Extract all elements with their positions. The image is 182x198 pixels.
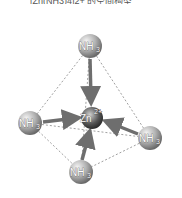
- ligand-nh3-left: NH 3: [18, 111, 42, 135]
- ligand-nh3-top: NH 3: [78, 34, 102, 58]
- svg-text:3: 3: [36, 123, 40, 130]
- zinc-ion: Zn 2+: [80, 107, 103, 129]
- svg-text:NH: NH: [70, 167, 84, 178]
- svg-text:NH: NH: [139, 133, 153, 144]
- zinc-charge: 2+: [94, 108, 102, 115]
- ligand-nh3-bottom: NH 3: [69, 160, 93, 184]
- ligand-nh3-right: NH 3: [138, 126, 162, 150]
- svg-text:NH: NH: [79, 41, 93, 52]
- zinc-label: Zn: [80, 113, 92, 124]
- svg-text:3: 3: [156, 138, 160, 145]
- svg-text:NH: NH: [19, 118, 33, 129]
- tetrahedral-complex-diagram: Zn 2+ NH 3 NH 3 NH 3 NH 3: [0, 0, 182, 198]
- svg-text:3: 3: [87, 172, 91, 179]
- svg-text:3: 3: [96, 46, 100, 53]
